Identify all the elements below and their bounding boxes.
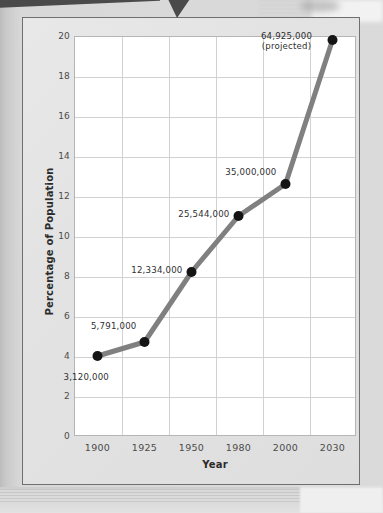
data-point-marker [234,211,244,221]
line-series [74,36,356,436]
y-axis-title: Percentage of Population [44,142,55,342]
data-point-marker [93,351,103,361]
chart-card: 02468101214161820 1900192519501980200020… [22,17,360,485]
x-tick-label: 2030 [320,442,345,453]
x-tick-label: 1925 [132,442,157,453]
x-tick-label: 2000 [273,442,298,453]
data-point-marker [328,35,338,45]
data-point-label: 64,925,000(projected) [261,31,312,52]
series-line [98,40,333,356]
data-point-label: 35,000,000 [225,167,276,177]
x-tick-label: 1980 [226,442,251,453]
data-point-label: 5,791,000 [91,321,137,331]
data-point-marker [140,337,150,347]
y-tick-label: 16 [26,111,70,121]
y-tick-label: 2 [26,391,70,401]
y-tick-label: 18 [26,71,70,81]
chart-container: 02468101214161820 1900192519501980200020… [23,18,359,484]
data-point-label: 12,334,000 [131,265,182,275]
data-point-marker [187,267,197,277]
data-point-label: 25,544,000 [178,209,229,219]
x-tick-label: 1900 [85,442,110,453]
data-point-marker [281,179,291,189]
y-tick-label: 4 [26,351,70,361]
data-point-label-annotation: (projected) [261,41,312,51]
y-tick-label: 20 [26,31,70,41]
page-bottom-hatching [0,489,300,503]
x-axis-ticks: 190019251950198020002030 [74,442,356,458]
data-point-label-value: 64,925,000 [261,31,312,41]
x-axis-title: Year [74,459,356,470]
x-tick-label: 1950 [179,442,204,453]
y-tick-label: 0 [26,431,70,441]
background-blur-spot [300,0,340,12]
page-bottom-highlight [300,487,383,513]
data-point-label: 3,120,000 [64,372,110,382]
